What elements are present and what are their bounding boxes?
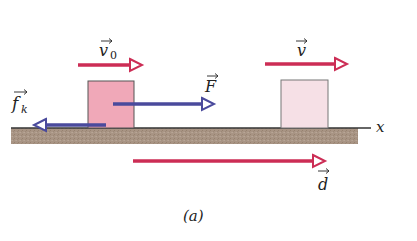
- ground-surface: [11, 128, 358, 144]
- figure-caption: (a): [183, 207, 204, 225]
- diagram-svg: x v 0 F: [0, 0, 417, 241]
- svg-text:f: f: [10, 93, 21, 113]
- work-energy-diagram: x v 0 F: [0, 0, 417, 241]
- displacement-arrow-icon: [133, 155, 325, 167]
- svg-text:v: v: [297, 41, 306, 60]
- block-final: [281, 80, 328, 128]
- svg-text:d: d: [318, 175, 328, 194]
- svg-text:F: F: [204, 77, 217, 96]
- label-fk: f k: [10, 90, 28, 117]
- label-F: F: [204, 74, 218, 97]
- label-v: v: [296, 39, 307, 61]
- svg-text:k: k: [21, 103, 28, 116]
- label-v0: v 0: [99, 39, 117, 63]
- x-axis-label: x: [376, 118, 385, 136]
- svg-text:0: 0: [110, 49, 117, 62]
- svg-text:v: v: [99, 41, 108, 60]
- label-d: d: [318, 169, 329, 195]
